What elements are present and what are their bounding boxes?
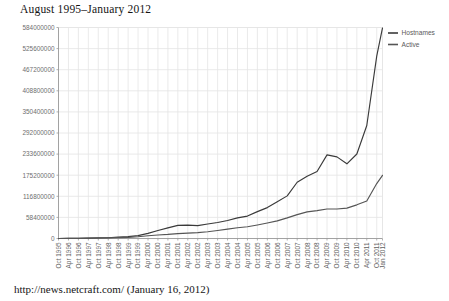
x-tick-label: Apr 1996 (65, 242, 73, 268)
x-axis-tick-labels: Oct 1995Apr 1996Oct 1996Apr 1997Oct 1997… (55, 242, 386, 269)
source-caption: http://news.netcraft.com/ (January 16, 2… (14, 283, 210, 295)
x-tick-label: Oct 2002 (194, 242, 201, 268)
x-tick-label: Apr 2006 (264, 242, 272, 268)
y-tick-label: 408800000 (23, 87, 55, 94)
y-tick-label: 467200000 (23, 66, 55, 73)
x-tick-label: Apr 2007 (284, 242, 292, 268)
x-tick-label: Apr 2002 (184, 242, 192, 268)
x-tick-label: Apr 2011 (363, 242, 371, 268)
netcraft-web-server-survey-chart: August 1995–January 2012 584000000525600… (0, 0, 449, 301)
x-tick-label: Oct 2010 (353, 242, 360, 268)
x-tick-label: Oct 1998 (115, 242, 122, 268)
legend: HostnamesActive (388, 29, 436, 48)
x-tick-label: Oct 2003 (214, 242, 221, 268)
y-tick-label: 525600000 (23, 45, 55, 52)
x-tick-label: Oct 2009 (333, 242, 340, 268)
y-tick-label: 175200000 (23, 172, 55, 179)
series-line-active (59, 175, 383, 238)
x-tick-label: Apr 2009 (323, 242, 331, 268)
x-tick-label: Oct 1995 (55, 242, 62, 268)
chart-plot-area: 5840000005256000004672000004088000003504… (0, 0, 449, 301)
y-tick-label: 292000000 (23, 129, 55, 136)
x-tick-label: Oct 2001 (174, 242, 181, 268)
x-tick-label: Jan 2012 (379, 242, 386, 269)
x-tick-label: Oct 1997 (95, 242, 102, 268)
x-tick-label: Apr 2004 (224, 242, 232, 268)
y-tick-label: 233600000 (23, 150, 55, 157)
y-tick-label: 584000000 (23, 24, 55, 31)
y-tick-label: 0 (51, 235, 55, 242)
x-tick-label: Oct 2004 (234, 242, 241, 268)
x-tick-label: Apr 2001 (164, 242, 172, 268)
y-tick-label: 350400000 (23, 108, 55, 115)
x-tick-label: Apr 2000 (144, 242, 152, 268)
legend-label-hostnames: Hostnames (402, 29, 436, 36)
x-tick-label: Oct 1999 (134, 242, 141, 268)
y-tick-label: 116800000 (23, 193, 55, 200)
x-tick-label: Oct 2005 (254, 242, 261, 268)
legend-label-active: Active (402, 41, 420, 48)
x-tick-label: Apr 1999 (125, 242, 133, 268)
gridlines-group (59, 28, 383, 239)
x-tick-label: Apr 2005 (244, 242, 252, 268)
x-tick-label: Apr 2003 (204, 242, 212, 268)
x-tick-label: Oct 2008 (313, 242, 320, 268)
x-tick-label: Oct 2007 (294, 242, 301, 268)
x-tick-label: Apr 2008 (304, 242, 312, 268)
x-tick-label: Apr 1998 (105, 242, 113, 268)
x-tick-label: Apr 2010 (343, 242, 351, 268)
x-tick-label: Oct 1996 (75, 242, 82, 268)
x-tick-label: Oct 2000 (154, 242, 161, 268)
x-tick-label: Oct 2006 (274, 242, 281, 268)
y-axis-tick-labels: 5840000005256000004672000004088000003504… (23, 24, 55, 242)
x-tick-label: Apr 1997 (85, 242, 93, 268)
y-tick-label: 58400000 (26, 214, 55, 221)
